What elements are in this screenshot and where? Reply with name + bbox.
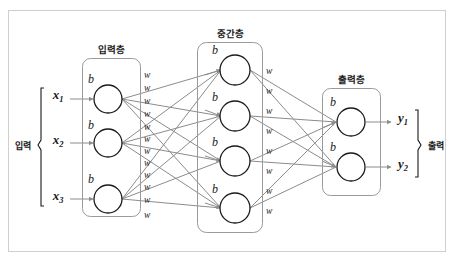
weight-label: w (144, 96, 151, 106)
hidden-layer-title: 중간층 (217, 28, 244, 39)
bias-label-hidden-2: b (212, 90, 218, 104)
input-group-label: 입력 (15, 140, 31, 151)
node-hidden-3[interactable] (220, 146, 250, 176)
network-canvas: 입력층 중간층 출력층 b b b b b b b b b (0, 0, 454, 271)
weight-label: w (144, 170, 151, 180)
weight-label: w (266, 126, 273, 136)
weight-label: w (144, 70, 151, 80)
bias-label-hidden-4: b (212, 182, 218, 196)
weight-label: w (144, 146, 151, 156)
weight-label: w (266, 206, 273, 216)
node-output-2[interactable] (337, 153, 365, 181)
output-layer-title: 출력층 (338, 74, 365, 85)
node-hidden-1[interactable] (220, 55, 250, 85)
weight-label: w (266, 86, 273, 96)
weight-label: w (144, 83, 151, 93)
weight-label: w (144, 134, 151, 144)
weight-label: w (266, 186, 273, 196)
node-output-1[interactable] (337, 108, 365, 136)
weight-label: w (144, 122, 151, 132)
node-input-2[interactable] (94, 129, 122, 157)
output-group-label: 출력 (428, 140, 444, 151)
bias-label-hidden-3: b (212, 135, 218, 149)
weight-label: w (144, 182, 151, 192)
bias-label-input-1: b (88, 72, 94, 86)
weight-label: w (266, 66, 273, 76)
bias-label-input-2: b (88, 118, 94, 132)
bias-label-output-1: b (330, 95, 336, 109)
weight-label: w (266, 106, 273, 116)
weight-label: w (144, 210, 151, 220)
weight-label: w (266, 166, 273, 176)
weight-label: w (144, 158, 151, 168)
bias-label-input-3: b (88, 172, 94, 186)
weight-label: w (266, 146, 273, 156)
node-hidden-2[interactable] (220, 101, 250, 131)
neural-network-diagram: 입력층 중간층 출력층 b b b b b b b b b (0, 0, 454, 271)
weight-label: w (144, 109, 151, 119)
bias-label-output-2: b (330, 140, 336, 154)
weight-label: w (144, 195, 151, 205)
node-input-3[interactable] (94, 185, 122, 213)
node-hidden-4[interactable] (220, 193, 250, 223)
node-input-1[interactable] (94, 85, 122, 113)
input-layer-title: 입력층 (98, 44, 125, 55)
bias-label-hidden-1: b (212, 43, 218, 57)
